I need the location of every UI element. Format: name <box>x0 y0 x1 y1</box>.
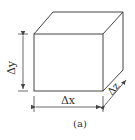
top-face-edges <box>34 12 123 34</box>
dy-label: Δy <box>5 60 18 75</box>
figure-caption: (a) <box>73 118 87 129</box>
front-face <box>34 34 103 91</box>
right-face-edges <box>103 12 123 91</box>
dy-dimension <box>18 34 28 91</box>
cube-diagram: Δy Δx Δz (a) <box>0 0 135 140</box>
dz-label: Δz <box>105 80 121 97</box>
dx-label: Δx <box>61 94 76 107</box>
cube <box>34 12 123 91</box>
